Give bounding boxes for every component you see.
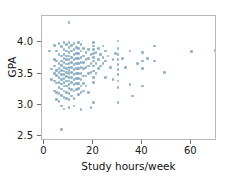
scatter-point: [102, 62, 105, 65]
scatter-point: [163, 71, 166, 74]
scatter-point: [190, 50, 193, 53]
scatter-point: [50, 68, 53, 71]
scatter-point: [117, 63, 120, 66]
scatter-point: [73, 105, 76, 108]
scatter-point: [117, 80, 120, 83]
scatter-point: [104, 76, 107, 79]
scatter-point: [92, 41, 95, 44]
scatter-point: [95, 72, 98, 75]
y-tick-label: 3.5: [17, 67, 33, 78]
scatter-point: [117, 47, 120, 50]
scatter-points-layer: [42, 16, 215, 139]
scatter-point: [102, 45, 105, 48]
x-tick-mark: [141, 140, 142, 144]
scatter-point: [87, 91, 90, 94]
scatter-point: [48, 50, 51, 53]
y-tick-label: 2.5: [17, 130, 33, 141]
x-tick-label: 20: [86, 145, 99, 156]
y-tick-label: 3.0: [17, 98, 33, 109]
scatter-point: [104, 50, 107, 53]
scatter-point: [87, 57, 90, 60]
scatter-point: [73, 48, 76, 51]
scatter-point: [146, 57, 149, 60]
x-tick-label: 60: [184, 145, 197, 156]
scatter-point: [117, 53, 120, 56]
scatter-point: [117, 40, 120, 43]
scatter-point: [80, 85, 83, 88]
scatter-point: [82, 61, 85, 64]
scatter-point: [85, 85, 88, 88]
scatter-point: [99, 65, 102, 68]
scatter-point: [95, 51, 98, 54]
scatter-point: [124, 66, 127, 69]
x-tick-label: 0: [40, 145, 46, 156]
scatter-point: [117, 58, 120, 61]
scatter-point: [90, 106, 93, 109]
plot-area: [41, 15, 216, 140]
scatter-point: [141, 67, 144, 70]
scatter-point: [92, 101, 95, 104]
scatter-point: [153, 60, 156, 63]
scatter-point: [80, 78, 83, 81]
scatter-point: [77, 52, 80, 55]
scatter-point: [117, 68, 120, 71]
scatter-point: [129, 50, 132, 53]
scatter-point: [92, 81, 95, 84]
x-tick-mark: [43, 140, 44, 144]
scatter-point: [82, 47, 85, 50]
scatter-point: [85, 75, 88, 78]
scatter-point: [87, 65, 90, 68]
scatter-point: [136, 62, 139, 65]
scatter-point: [80, 50, 83, 53]
scatter-point: [77, 93, 80, 96]
scatter-point: [92, 45, 95, 48]
scatter-point: [68, 83, 71, 86]
scatter-point: [80, 108, 83, 111]
scatter-point: [109, 66, 112, 69]
y-tick-label: 4.0: [17, 36, 33, 47]
scatter-point: [63, 108, 66, 111]
x-tick-label: 40: [135, 145, 148, 156]
scatter-point: [77, 87, 80, 90]
scatter-point: [95, 62, 98, 65]
scatter-point: [80, 43, 83, 46]
scatter-point: [129, 83, 132, 86]
scatter-point: [141, 85, 144, 88]
scatter-point: [73, 42, 76, 45]
scatter-point: [82, 55, 85, 58]
scatter-point: [117, 86, 120, 89]
scatter-point: [73, 97, 76, 100]
scatter-point: [58, 100, 61, 103]
scatter-point: [112, 58, 115, 61]
scatter-point: [97, 58, 100, 61]
scatter-point: [68, 106, 71, 109]
scatter-point: [87, 48, 90, 51]
scatter-point: [112, 78, 115, 81]
scatter-point: [85, 51, 88, 54]
scatter-point: [53, 44, 56, 47]
scatter-point: [92, 56, 95, 59]
scatter-point: [117, 101, 120, 104]
scatter-point: [107, 55, 110, 58]
x-tick-mark: [190, 140, 191, 144]
scatter-point: [60, 105, 63, 108]
scatter-point: [131, 95, 134, 98]
scatter-point: [121, 57, 124, 60]
scatter-plot-figure: GPA 2.53.03.54.0 0204060 Study hours/wee…: [0, 0, 228, 180]
scatter-point: [117, 73, 120, 76]
scatter-point: [104, 60, 107, 63]
x-tick-mark: [92, 140, 93, 144]
scatter-point: [102, 56, 105, 59]
scatter-point: [68, 98, 71, 101]
scatter-point: [153, 45, 156, 48]
scatter-point: [92, 65, 95, 68]
scatter-point: [97, 47, 100, 50]
scatter-point: [60, 128, 63, 131]
scatter-point: [141, 60, 144, 63]
scatter-point: [68, 21, 71, 24]
x-axis-title: Study hours/week: [41, 160, 216, 172]
scatter-point: [53, 65, 56, 68]
scatter-point: [97, 67, 100, 70]
scatter-point: [141, 51, 144, 54]
scatter-point: [55, 50, 58, 53]
